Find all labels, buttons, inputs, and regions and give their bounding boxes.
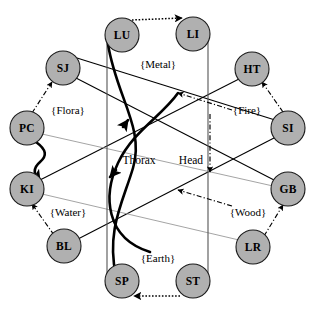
thorax-curve-arrow-upper (123, 120, 128, 127)
thorax-thick-curve (110, 93, 178, 252)
node-sj[interactable]: SJ (46, 51, 80, 85)
diagram-root: {Metal} {Fire} {Wood} {Earth} {Water} {F… (0, 0, 316, 316)
node-si-label: SI (282, 122, 294, 134)
node-sj-label: SJ (57, 62, 70, 74)
center-label-head: Head (179, 154, 204, 166)
node-st-label: ST (186, 275, 201, 287)
node-pc[interactable]: PC (10, 111, 44, 145)
node-lr[interactable]: LR (236, 230, 270, 264)
node-ht-label: HT (243, 63, 260, 75)
node-li-label: LI (187, 28, 200, 40)
element-label-earth: {Earth} (141, 252, 175, 264)
pair-arrow-lr-to-gb (264, 205, 283, 236)
node-pc-label: PC (19, 122, 35, 134)
node-gb[interactable]: GB (271, 172, 305, 206)
node-st[interactable]: ST (176, 264, 210, 298)
element-label-metal: {Metal} (140, 58, 176, 70)
element-label-water: {Water} (50, 206, 87, 218)
node-li[interactable]: LI (176, 17, 210, 51)
center-label-group: Thorax Head (122, 154, 203, 166)
node-bl[interactable]: BL (47, 229, 81, 263)
pair-arrow-pc-to-sj (32, 82, 52, 113)
figure-caption (0, 304, 316, 316)
node-sp[interactable]: SP (105, 264, 139, 298)
pair-arrow-lu-to-li (132, 18, 182, 20)
node-ki[interactable]: KI (10, 172, 44, 206)
head-arrow-group (178, 93, 232, 206)
node-si[interactable]: SI (271, 111, 305, 145)
head-lower-dashdot-arrow (178, 190, 232, 206)
element-label-flora: {Flora} (51, 104, 85, 116)
center-label-thorax: Thorax (122, 154, 155, 166)
node-ht[interactable]: HT (235, 52, 269, 86)
node-bl-label: BL (56, 240, 72, 252)
element-label-wood: {Wood} (230, 206, 267, 218)
element-label-group: {Metal} {Fire} {Wood} {Earth} {Water} {F… (50, 58, 267, 264)
star-edge-gb-to-sj (76, 78, 274, 180)
wheel-diagram-canvas: {Metal} {Fire} {Wood} {Earth} {Water} {F… (0, 0, 316, 316)
pair-arrow-si-to-ht (262, 82, 283, 112)
head-upper-dashdot-arrow (178, 93, 232, 110)
node-lu[interactable]: LU (105, 18, 139, 52)
node-sp-label: SP (115, 275, 129, 287)
star-edge-pc-to-gb (42, 134, 273, 186)
element-label-fire: {Fire} (233, 104, 261, 116)
node-ki-label: KI (20, 183, 34, 195)
node-gb-label: GB (279, 183, 296, 195)
node-lr-label: LR (245, 241, 262, 253)
node-lu-label: LU (114, 29, 131, 41)
